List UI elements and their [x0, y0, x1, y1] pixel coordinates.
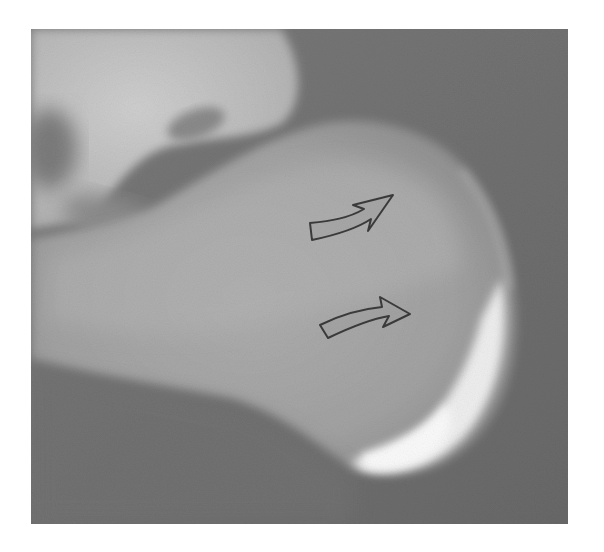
xray-image [31, 29, 568, 524]
xray-svg [31, 29, 568, 524]
xray-content [31, 29, 568, 524]
